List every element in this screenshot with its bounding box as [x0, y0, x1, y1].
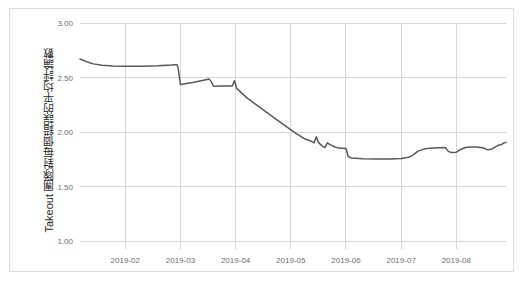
x-gridlines	[125, 23, 456, 249]
y-tick-label: 2.50	[57, 74, 73, 83]
x-tick-label: 2019-08	[442, 256, 472, 265]
x-tick-labels: 2019-022019-032019-042019-052019-062019-…	[111, 256, 472, 265]
x-tick-label: 2019-05	[276, 256, 306, 265]
x-tick-label: 2019-02	[111, 256, 141, 265]
y-tick-label: 2.00	[57, 128, 73, 137]
y-tick-labels: 1.001.502.002.503.00	[57, 19, 73, 246]
y-tick-label: 1.00	[57, 237, 73, 246]
plot-area: 1.001.502.002.503.00 2019-022019-032019-…	[10, 9, 513, 271]
x-tick-label: 2019-07	[386, 256, 416, 265]
chart-card: Takeout 團隊對每個錯誤的平均評論數 1.001.502.002.503.…	[9, 8, 514, 272]
data-series-line	[80, 59, 506, 159]
y-tick-label: 1.50	[57, 183, 73, 192]
x-tick-label: 2019-03	[166, 256, 196, 265]
y-tick-label: 3.00	[57, 19, 73, 28]
line-chart-svg: 1.001.502.002.503.00 2019-022019-032019-…	[10, 9, 515, 273]
x-tick-label: 2019-06	[331, 256, 361, 265]
data-series-group	[80, 59, 506, 159]
x-tick-label: 2019-04	[221, 256, 251, 265]
